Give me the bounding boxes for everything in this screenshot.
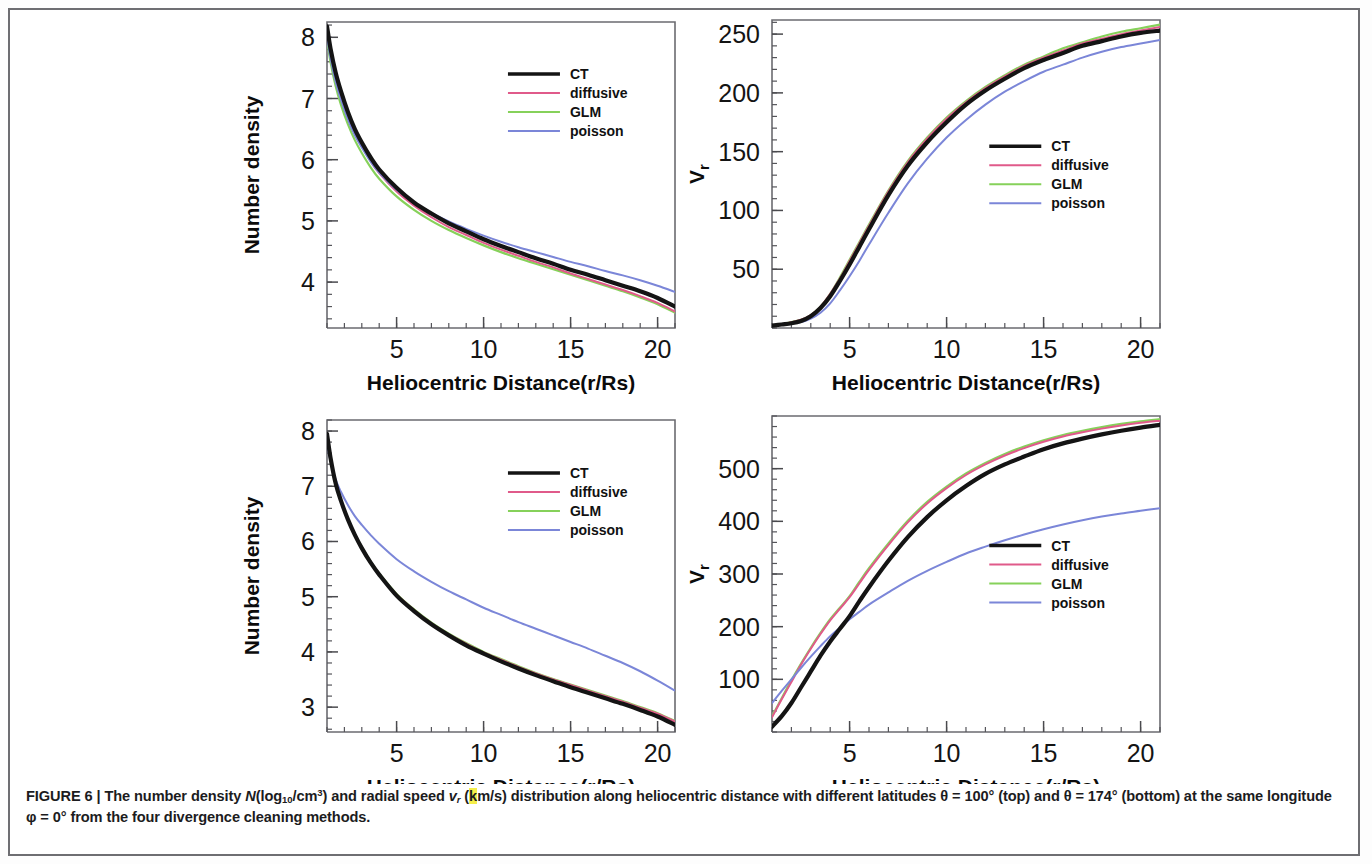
- x-tick-label: 10: [933, 335, 961, 363]
- y-tick-label: 8: [301, 417, 315, 445]
- caption-text-3: from the four divergence cleaning method…: [66, 809, 370, 825]
- series-line-glm: [772, 25, 1160, 326]
- series-line-ct: [772, 31, 1160, 326]
- x-tick-label: 10: [470, 739, 498, 767]
- caption-theta-bottom: θ = 174°: [1064, 788, 1118, 804]
- plot-panel-top-left: 510152045678Heliocentric Distance(r/Rs)N…: [175, 10, 695, 400]
- caption-cm: /cm: [292, 788, 317, 804]
- legend-label-glm: GLM: [1051, 176, 1082, 192]
- plot-svg: 5101520100200300400500Heliocentric Dista…: [620, 402, 1180, 784]
- y-tick-label: 100: [718, 196, 760, 224]
- y-tick-label: 200: [718, 613, 760, 641]
- legend-label-ct: CT: [1051, 538, 1070, 554]
- legend-label-diffusive: diffusive: [1051, 557, 1109, 573]
- x-tick-label: 15: [557, 335, 585, 363]
- x-tick-label: 5: [843, 739, 857, 767]
- figure-caption-area: FIGURE 6 | The number density N(log10/cm…: [26, 786, 1336, 856]
- caption-units-rest: m/s): [477, 788, 507, 804]
- caption-text-2: distribution along heliocentric distance…: [507, 788, 941, 804]
- caption-symbol-v: v: [449, 788, 457, 804]
- legend: CTdiffusiveGLMpoisson: [989, 538, 1109, 611]
- caption-top-marker: (top): [994, 788, 1030, 804]
- x-tick-label: 10: [470, 335, 498, 363]
- figure-caption: FIGURE 6 | The number density N(log10/cm…: [26, 786, 1336, 828]
- x-axis-title: Heliocentric Distance(r/Rs): [832, 775, 1100, 784]
- y-tick-label: 250: [718, 20, 760, 48]
- caption-units-highlight: k: [469, 788, 477, 804]
- series-line-poisson: [772, 40, 1160, 326]
- caption-log-base: 10: [282, 794, 292, 805]
- legend-label-ct: CT: [570, 465, 589, 481]
- series-line-diffusive: [772, 27, 1160, 326]
- plot-svg: 510152045678Heliocentric Distance(r/Rs)N…: [175, 10, 695, 400]
- y-tick-label: 4: [301, 638, 315, 666]
- y-tick-label: 5: [301, 207, 315, 235]
- figure-label: FIGURE 6: [26, 788, 93, 804]
- legend: CTdiffusiveGLMpoisson: [508, 66, 628, 139]
- caption-text-1: The number density: [104, 788, 245, 804]
- plot-panels-container: 510152045678Heliocentric Distance(r/Rs)N…: [10, 10, 1358, 780]
- y-axis-title: Vr: [685, 564, 712, 584]
- y-axis-title: Vr: [685, 164, 712, 184]
- plot-panel-bottom-left: 5101520345678Heliocentric Distance(r/Rs)…: [175, 402, 695, 784]
- y-tick-label: 3: [301, 693, 315, 721]
- plot-frame: [772, 416, 1160, 732]
- series-group: [772, 419, 1160, 727]
- y-tick-label: 7: [301, 85, 315, 113]
- legend-label-ct: CT: [570, 66, 589, 82]
- series-line-ct: [772, 425, 1160, 727]
- y-tick-label: 7: [301, 472, 315, 500]
- legend-label-glm: GLM: [570, 503, 601, 519]
- x-tick-label: 15: [557, 739, 585, 767]
- y-axis-ticks: 50100150200250: [718, 20, 783, 328]
- legend-label-ct: CT: [1051, 138, 1070, 154]
- y-tick-label: 100: [718, 665, 760, 693]
- x-axis-title: Heliocentric Distance(r/Rs): [832, 371, 1100, 394]
- y-tick-label: 8: [301, 23, 315, 51]
- x-axis-title: Heliocentric Distance(r/Rs): [367, 371, 635, 394]
- plot-svg: 510152050100150200250Heliocentric Distan…: [620, 10, 1180, 400]
- x-tick-label: 5: [843, 335, 857, 363]
- plot-panel-top-right: 510152050100150200250Heliocentric Distan…: [620, 10, 1180, 400]
- legend-label-glm: GLM: [570, 104, 601, 120]
- legend: CTdiffusiveGLMpoisson: [989, 138, 1109, 211]
- legend-label-poisson: poisson: [570, 522, 624, 538]
- x-tick-label: 10: [933, 739, 961, 767]
- caption-bottom-marker: (bottom) at the same longitude: [1118, 788, 1332, 804]
- legend-label-poisson: poisson: [1051, 195, 1105, 211]
- x-tick-label: 5: [390, 335, 404, 363]
- y-axis-title: Number density: [240, 496, 263, 655]
- legend: CTdiffusiveGLMpoisson: [508, 465, 628, 538]
- figure-root: 510152045678Heliocentric Distance(r/Rs)N…: [0, 0, 1372, 864]
- y-tick-label: 400: [718, 507, 760, 535]
- plot-panel-bottom-right: 5101520100200300400500Heliocentric Dista…: [620, 402, 1180, 784]
- y-tick-label: 6: [301, 527, 315, 555]
- caption-theta-top: θ = 100°: [940, 788, 994, 804]
- x-tick-label: 15: [1030, 739, 1058, 767]
- y-tick-label: 4: [301, 268, 315, 296]
- x-tick-label: 20: [1127, 335, 1155, 363]
- y-tick-label: 50: [732, 255, 760, 283]
- caption-phi: φ = 0°: [26, 809, 66, 825]
- x-axis-title: Heliocentric Distance(r/Rs): [367, 775, 635, 784]
- x-axis-ticks: 5101520: [772, 317, 1160, 363]
- plot-frame: [772, 20, 1160, 328]
- x-tick-label: 5: [390, 739, 404, 767]
- y-axis-title: Number density: [240, 95, 263, 254]
- legend-label-poisson: poisson: [1051, 595, 1105, 611]
- y-tick-label: 150: [718, 138, 760, 166]
- x-axis-ticks: 5101520: [772, 721, 1160, 767]
- x-tick-label: 20: [1127, 739, 1155, 767]
- caption-symbol-N: N: [245, 788, 255, 804]
- y-tick-label: 300: [718, 560, 760, 588]
- caption-line2-start: and: [1034, 788, 1064, 804]
- caption-close-paren: ) and radial speed: [322, 788, 448, 804]
- x-tick-label: 15: [1030, 335, 1058, 363]
- y-tick-label: 500: [718, 455, 760, 483]
- caption-units-open: (: [460, 788, 469, 804]
- series-group: [772, 25, 1160, 326]
- legend-label-poisson: poisson: [570, 123, 624, 139]
- y-tick-label: 5: [301, 583, 315, 611]
- y-tick-label: 200: [718, 79, 760, 107]
- plot-svg: 5101520345678Heliocentric Distance(r/Rs)…: [175, 402, 695, 784]
